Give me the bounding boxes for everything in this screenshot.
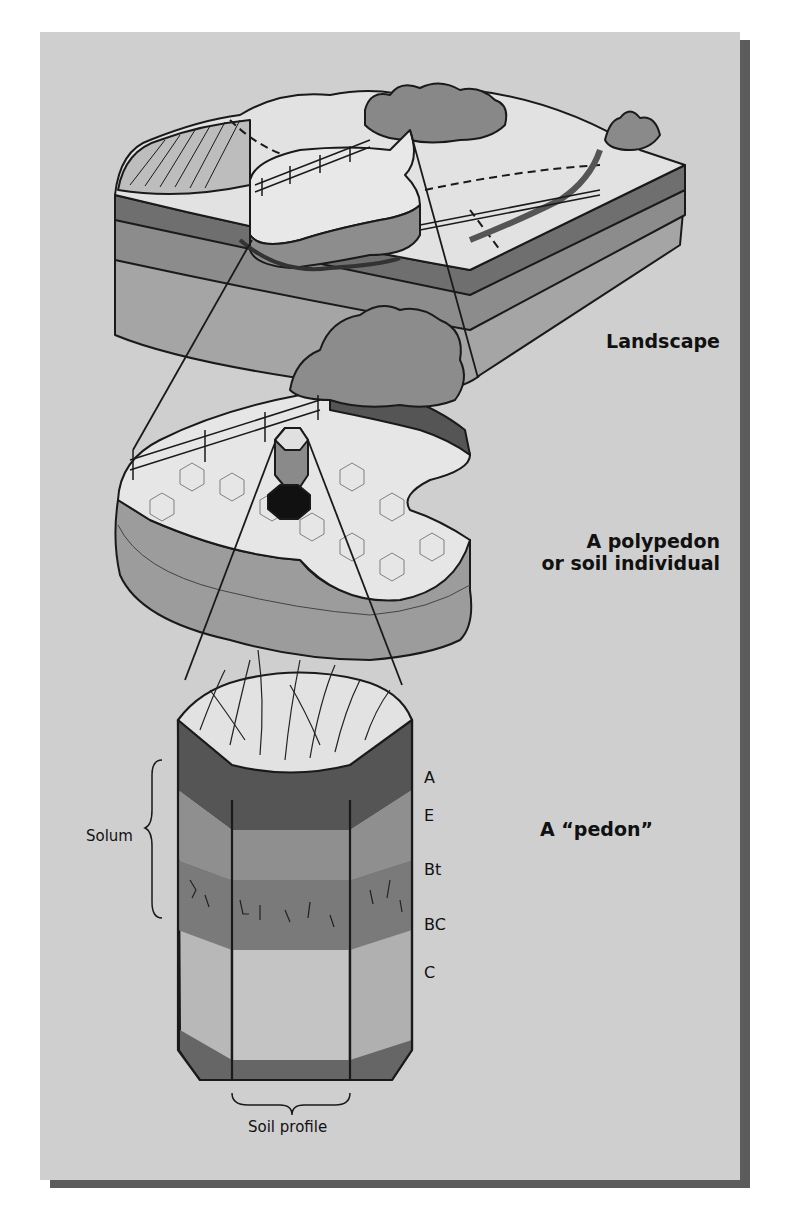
horizon-label-a: A [424, 768, 435, 787]
soil-profile-brace [232, 1093, 350, 1115]
label-soil-profile: Soil profile [248, 1118, 327, 1136]
label-landscape: Landscape [520, 330, 720, 352]
horizon-label-e: E [424, 806, 434, 825]
label-polypedon-line1: A polypedon [480, 530, 720, 552]
label-pedon: A “pedon” [540, 818, 700, 840]
horizon-label-bc: BC [424, 915, 446, 934]
solum-brace [145, 760, 162, 918]
label-polypedon: A polypedon or soil individual [480, 530, 720, 574]
pedon-prism [178, 650, 412, 1080]
label-solum: Solum [86, 827, 133, 845]
horizon-label-c: C [424, 963, 435, 982]
horizon-label-bt: Bt [424, 860, 441, 879]
label-polypedon-line2: or soil individual [480, 552, 720, 574]
soil-diagram-illustration [0, 0, 785, 1227]
